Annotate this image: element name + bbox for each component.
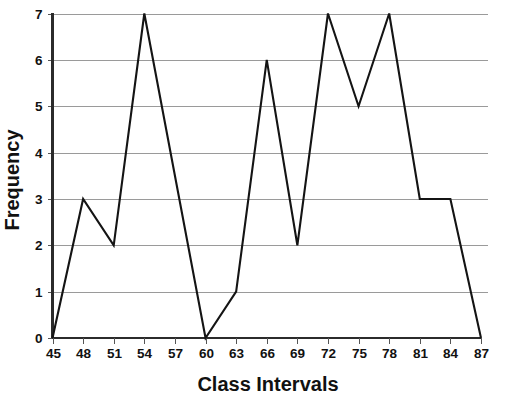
x-tick-label-54: 54 bbox=[137, 346, 153, 361]
y-tick-label-1: 1 bbox=[35, 285, 43, 300]
x-tick-label-60: 60 bbox=[199, 346, 214, 361]
x-tick-label-48: 48 bbox=[76, 346, 92, 361]
x-tick-label-57: 57 bbox=[168, 346, 183, 361]
frequency-polygon-chart: 01234567 454851545760636669727578818487 … bbox=[0, 0, 505, 403]
y-tick-label-5: 5 bbox=[35, 99, 43, 114]
y-tick-label-3: 3 bbox=[35, 192, 43, 207]
y-tick-label-6: 6 bbox=[35, 53, 43, 68]
y-tick-label-4: 4 bbox=[35, 146, 43, 161]
x-tick-label-69: 69 bbox=[290, 346, 305, 361]
x-tick-label-84: 84 bbox=[443, 346, 459, 361]
x-tick-label-72: 72 bbox=[321, 346, 336, 361]
x-tick-labels-group: 454851545760636669727578818487 bbox=[46, 346, 489, 361]
x-tick-label-81: 81 bbox=[413, 346, 429, 361]
x-tick-label-66: 66 bbox=[260, 346, 276, 361]
x-tick-label-78: 78 bbox=[382, 346, 398, 361]
y-tick-label-7: 7 bbox=[35, 7, 43, 22]
y-tick-label-2: 2 bbox=[35, 238, 43, 253]
x-tick-label-63: 63 bbox=[229, 346, 245, 361]
x-tick-label-75: 75 bbox=[352, 346, 368, 361]
x-tick-label-51: 51 bbox=[107, 346, 123, 361]
x-tick-label-87: 87 bbox=[474, 346, 489, 361]
x-tick-label-45: 45 bbox=[46, 346, 62, 361]
y-axis-title: Frequency bbox=[1, 129, 23, 231]
y-tick-label-0: 0 bbox=[35, 331, 43, 346]
chart-plot-area: 01234567 454851545760636669727578818487 … bbox=[0, 0, 505, 403]
x-axis-title: Class Intervals bbox=[197, 373, 338, 395]
